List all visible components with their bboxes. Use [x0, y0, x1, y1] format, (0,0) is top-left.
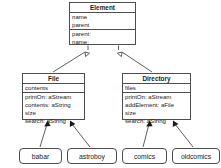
generalization-file-to-element	[53, 46, 90, 73]
methods-compartment-element: parent: name:	[70, 30, 135, 46]
attribute-row: name	[70, 13, 135, 21]
method-row: size	[23, 109, 84, 117]
instance-label: astroboy	[79, 153, 105, 160]
method-row: printOn: aStream	[23, 93, 84, 101]
class-name-directory: Directory	[123, 74, 190, 84]
method-row: name:	[70, 38, 135, 46]
method-row: addElement: aFile	[123, 101, 190, 109]
method-row: parent:	[70, 30, 135, 38]
class-name-element: Element	[70, 3, 135, 13]
attributes-compartment-element: name parent	[70, 13, 135, 30]
attributes-compartment-file: contents	[23, 84, 84, 93]
instance-label: babar	[32, 153, 49, 160]
instance-label: oldcomics	[181, 153, 211, 160]
class-box-file[interactable]: File contents printOn: aStream contents:…	[22, 73, 85, 120]
class-name-file: File	[23, 74, 84, 84]
method-row: printOn: aStream	[123, 93, 190, 101]
instance-box-babar[interactable]: babar	[19, 148, 62, 164]
method-row: size	[123, 109, 190, 117]
instance-box-astroboy[interactable]: astroboy	[67, 148, 117, 164]
method-row: contents: aString	[23, 101, 84, 109]
attributes-compartment-directory: files	[123, 84, 190, 93]
method-row: search: aString	[123, 117, 190, 125]
methods-compartment-file: printOn: aStream contents: aString size …	[23, 93, 84, 125]
methods-compartment-directory: printOn: aStream addElement: aFile size …	[123, 93, 190, 125]
instance-box-comics[interactable]: comics	[122, 148, 167, 164]
class-box-element[interactable]: Element name parent parent: name:	[69, 2, 136, 45]
generalization-directory-to-element	[117, 46, 152, 73]
attribute-row: contents	[23, 84, 84, 92]
class-box-directory[interactable]: Directory files printOn: aStream addElem…	[122, 73, 191, 120]
uml-class-diagram: Element name parent parent: name: File c…	[0, 0, 221, 168]
instance-label: comics	[134, 153, 155, 160]
attribute-row: parent	[70, 21, 135, 29]
method-row: search: aString	[23, 117, 84, 125]
instance-box-oldcomics[interactable]: oldcomics	[172, 148, 220, 164]
attribute-row: files	[123, 84, 190, 92]
